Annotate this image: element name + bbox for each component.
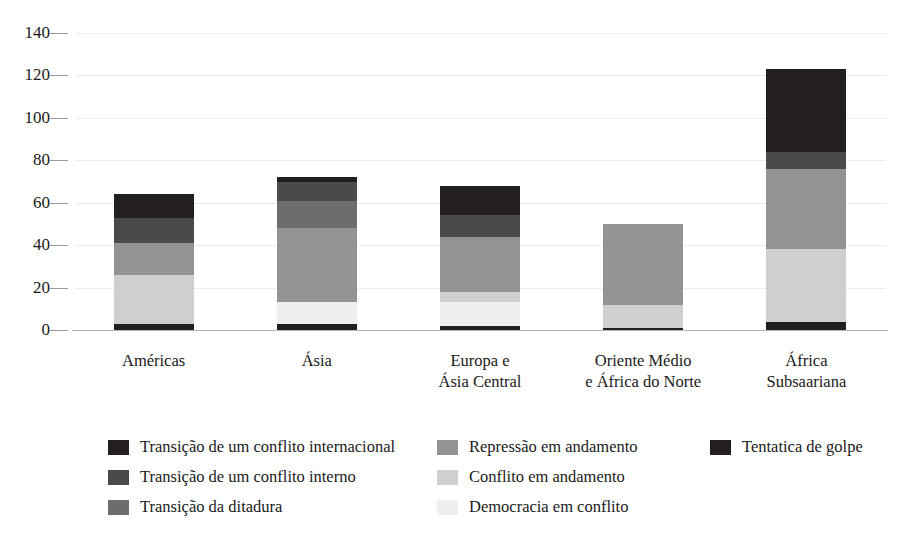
legend-swatch-icon: [437, 470, 458, 485]
x-axis-tick-label-line: Oriente Médio: [562, 350, 725, 371]
legend-label: Conflito em andamento: [469, 469, 625, 486]
chart-legend: Transição de um conflito internacionalTr…: [0, 432, 921, 546]
x-axis-labels: AméricasÁsiaEuropa eÁsia CentralOriente …: [72, 334, 888, 414]
bar-segment[interactable]: [114, 275, 194, 324]
bar-segment[interactable]: [440, 326, 520, 330]
bar-segment[interactable]: [440, 302, 520, 325]
x-axis-tick-label-line: Europa e: [398, 350, 561, 371]
bar-stack[interactable]: [766, 69, 846, 330]
legend-label: Democracia em conflito: [469, 499, 628, 516]
bar-segment[interactable]: [766, 169, 846, 250]
x-axis-tick-label: Oriente Médioe África do Norte: [562, 350, 725, 392]
legend-item[interactable]: Conflito em andamento: [437, 462, 638, 492]
y-tick-mark: [50, 288, 68, 289]
y-axis-tick-label: 100: [6, 109, 50, 126]
legend-column-3: Tentatica de golpe: [710, 432, 863, 462]
x-axis-tick-label-line: Américas: [72, 350, 235, 371]
legend-label: Transição de um conflito internacional: [140, 439, 395, 456]
bar-segment[interactable]: [277, 324, 357, 330]
x-axis-tick-label-line: Subsaariana: [725, 371, 888, 392]
bar-segment[interactable]: [277, 182, 357, 201]
y-axis-tick-label: 40: [6, 236, 50, 253]
legend-column-1: Transição de um conflito internacionalTr…: [108, 432, 395, 522]
legend-swatch-icon: [108, 470, 129, 485]
plot-area: 020406080100120140 AméricasÁsiaEuropa eÁ…: [0, 0, 921, 420]
y-tick-mark: [50, 245, 68, 246]
legend-swatch-icon: [108, 500, 129, 515]
y-axis-tick-label: 140: [6, 24, 50, 41]
y-tick-mark: [50, 203, 68, 204]
legend-swatch-icon: [437, 440, 458, 455]
bar-segment[interactable]: [114, 243, 194, 275]
legend-item[interactable]: Democracia em conflito: [437, 492, 638, 522]
legend-item[interactable]: Transição de um conflito interno: [108, 462, 395, 492]
y-axis-tick-label: 20: [6, 279, 50, 296]
bar-stack[interactable]: [277, 177, 357, 330]
bar-segment[interactable]: [114, 218, 194, 243]
x-axis-tick-label-line: Ásia Central: [398, 371, 561, 392]
bar-segment[interactable]: [277, 228, 357, 302]
x-axis-tick-label-line: África: [725, 350, 888, 371]
legend-swatch-icon: [108, 440, 129, 455]
legend-label: Repressão em andamento: [469, 439, 638, 456]
bar-stack[interactable]: [603, 224, 683, 330]
legend-label: Tentatica de golpe: [742, 439, 863, 456]
y-axis-tick-label: 120: [6, 66, 50, 83]
bar-segment[interactable]: [440, 237, 520, 292]
x-axis-tick-label: Américas: [72, 350, 235, 371]
legend-label: Transição de um conflito interno: [140, 469, 356, 486]
legend-swatch-icon: [710, 440, 731, 455]
legend-item[interactable]: Tentatica de golpe: [710, 432, 863, 462]
x-axis-tick-label: Ásia: [235, 350, 398, 371]
bar-segment[interactable]: [603, 328, 683, 330]
bar-stack[interactable]: [440, 186, 520, 330]
x-axis-tick-label: Europa eÁsia Central: [398, 350, 561, 392]
x-axis-tick-label-line: Ásia: [235, 350, 398, 371]
y-tick-mark: [50, 118, 68, 119]
bar-segment[interactable]: [603, 224, 683, 305]
legend-item[interactable]: Transição de um conflito internacional: [108, 432, 395, 462]
y-tick-mark: [50, 160, 68, 161]
y-tick-mark: [50, 330, 68, 331]
bar-segment[interactable]: [277, 302, 357, 323]
legend-item[interactable]: Repressão em andamento: [437, 432, 638, 462]
y-tick-mark: [50, 33, 68, 34]
bar-segment[interactable]: [603, 305, 683, 328]
bar-segment[interactable]: [440, 215, 520, 236]
bar-stack[interactable]: [114, 194, 194, 330]
bar-segment[interactable]: [114, 194, 194, 217]
y-axis-tick-label: 0: [6, 321, 50, 338]
y-tick-mark: [50, 75, 68, 76]
bar-segment[interactable]: [114, 324, 194, 330]
legend-item[interactable]: Transição da ditadura: [108, 492, 395, 522]
bar-segment[interactable]: [766, 322, 846, 330]
x-axis-tick-label: ÁfricaSubsaariana: [725, 350, 888, 392]
legend-label: Transição da ditadura: [140, 499, 282, 516]
legend-swatch-icon: [437, 500, 458, 515]
stacked-bar-chart: 020406080100120140 AméricasÁsiaEuropa eÁ…: [0, 0, 921, 546]
x-axis-line: [72, 330, 888, 331]
bar-segment[interactable]: [766, 249, 846, 321]
legend-column-2: Repressão em andamentoConflito em andame…: [437, 432, 638, 522]
bar-segment[interactable]: [766, 69, 846, 152]
bar-segment[interactable]: [440, 292, 520, 303]
bar-segment[interactable]: [766, 152, 846, 169]
y-axis-tick-label: 80: [6, 151, 50, 168]
bar-segment[interactable]: [440, 186, 520, 216]
bars-layer: [72, 0, 888, 330]
x-axis-tick-label-line: e África do Norte: [562, 371, 725, 392]
y-axis-tick-label: 60: [6, 194, 50, 211]
bar-segment[interactable]: [277, 201, 357, 229]
